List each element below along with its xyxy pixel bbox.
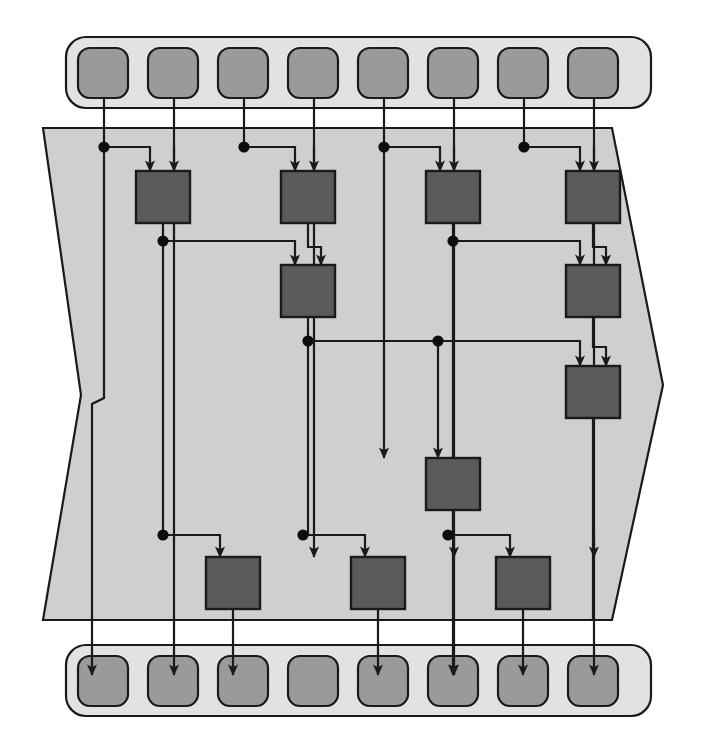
input-node-4[interactable]	[358, 48, 408, 98]
input-node-7[interactable]	[568, 48, 618, 98]
processor-a2[interactable]	[281, 171, 335, 223]
processor-d1[interactable]	[426, 458, 480, 510]
junction-l2-t	[238, 141, 249, 152]
input-node-5[interactable]	[428, 48, 478, 98]
input-node-0[interactable]	[78, 48, 128, 98]
junction-l4-t	[378, 141, 389, 152]
processor-b2[interactable]	[566, 265, 620, 317]
junction-l6-lo	[442, 529, 453, 540]
junction-a3-out	[447, 235, 458, 246]
input-node-1[interactable]	[148, 48, 198, 98]
junction-l2-lo	[157, 529, 168, 540]
output-node-3[interactable]	[288, 656, 338, 706]
processor-a3[interactable]	[426, 171, 480, 223]
processor-c1[interactable]	[566, 366, 620, 418]
input-node-2[interactable]	[218, 48, 268, 98]
processor-e3[interactable]	[496, 557, 550, 609]
junction-l6-t	[518, 141, 529, 152]
input-register-bank	[66, 37, 651, 108]
junction-b1-out	[302, 335, 313, 346]
output-node-0[interactable]	[78, 656, 128, 706]
input-node-6[interactable]	[498, 48, 548, 98]
junction-l0-t	[98, 141, 109, 152]
processor-a1[interactable]	[136, 171, 190, 223]
input-node-3[interactable]	[288, 48, 338, 98]
output-node-4[interactable]	[358, 656, 408, 706]
diagram-canvas	[0, 0, 706, 754]
network-diagram-svg	[0, 0, 706, 754]
junction-b2-out	[432, 335, 443, 346]
processor-e2[interactable]	[351, 557, 405, 609]
processor-e1[interactable]	[206, 557, 260, 609]
junction-a1-out	[157, 235, 168, 246]
junction-l4-lo	[297, 529, 308, 540]
processor-b1[interactable]	[281, 265, 335, 317]
processor-a4[interactable]	[566, 171, 620, 223]
output-node-2[interactable]	[218, 656, 268, 706]
output-register-bank	[66, 645, 651, 716]
